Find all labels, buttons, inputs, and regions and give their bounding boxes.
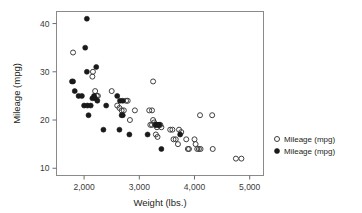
chart-legend: Mileage (mpg)Mileage (mpg) (275, 135, 336, 156)
data-point (90, 74, 95, 79)
y-tick-label: 20 (40, 115, 50, 125)
axis-ticks: 2,0003,0004,0005,00010203040 (40, 19, 261, 192)
x-axis-title: Weight (lbs.) (133, 197, 186, 208)
y-tick-label: 30 (40, 67, 50, 77)
data-point (132, 108, 137, 113)
data-point (175, 142, 180, 147)
series-filled (69, 16, 182, 151)
y-axis-title: Mileage (mpg) (11, 63, 22, 124)
data-point (239, 156, 244, 161)
data-point (104, 103, 109, 108)
data-point (193, 142, 198, 147)
data-point (233, 156, 238, 161)
x-tick-label: 3,000 (129, 182, 151, 192)
x-tick-label: 5,000 (239, 182, 261, 192)
legend-marker-open-icon (275, 137, 280, 142)
data-point (84, 69, 89, 74)
legend-marker-filled-icon (275, 149, 280, 154)
data-point (117, 127, 122, 132)
data-point (90, 69, 95, 74)
data-point (157, 122, 162, 127)
data-point (93, 89, 98, 94)
data-point (109, 89, 114, 94)
legend-label: Mileage (mpg) (284, 147, 335, 156)
data-point (178, 132, 183, 137)
y-tick-label: 40 (40, 19, 50, 29)
axis-labels: Weight (lbs.)Mileage (mpg) (11, 63, 187, 207)
data-point (83, 45, 88, 50)
data-point (71, 79, 76, 84)
y-tick-label: 10 (40, 163, 50, 173)
data-point (86, 113, 91, 118)
data-point (127, 118, 132, 123)
data-point (72, 89, 77, 94)
data-point (84, 16, 89, 21)
data-point (127, 132, 132, 137)
data-point (198, 113, 203, 118)
data-point (120, 98, 125, 103)
data-point (210, 113, 215, 118)
data-point (88, 103, 93, 108)
data-point (192, 137, 197, 142)
data-point (120, 113, 125, 118)
data-point (101, 127, 106, 132)
data-point (151, 79, 156, 84)
data-point (94, 64, 99, 69)
legend-label: Mileage (mpg) (284, 135, 335, 144)
data-point (184, 137, 189, 142)
data-point (115, 93, 120, 98)
data-point (159, 146, 164, 151)
data-point (95, 98, 100, 103)
data-point (145, 132, 150, 137)
data-point (210, 146, 215, 151)
chart-canvas: 2,0003,0004,0005,00010203040 Weight (lbs… (0, 0, 362, 213)
data-point (71, 50, 76, 55)
scatter-chart-figure: 2,0003,0004,0005,00010203040 Weight (lbs… (0, 0, 362, 213)
data-point (79, 93, 84, 98)
x-tick-label: 2,000 (73, 182, 95, 192)
data-points (69, 16, 243, 161)
x-tick-label: 4,000 (184, 182, 206, 192)
